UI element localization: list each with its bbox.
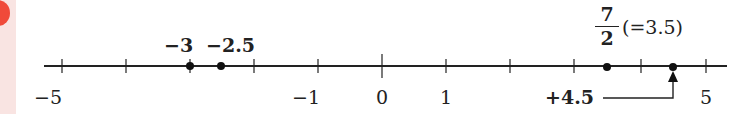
fraction-numerator: 7 [595, 5, 619, 27]
point-label-neg2-5: −2.5 [206, 36, 255, 55]
fraction-note: (=3.5) [622, 18, 683, 37]
arrow-annotation [603, 71, 678, 98]
point-4-5 [669, 63, 677, 71]
fraction-denominator: 2 [595, 27, 619, 48]
point-neg3 [186, 62, 194, 70]
point-label-neg3: −3 [164, 36, 193, 55]
tick-label-neg5: −5 [34, 88, 62, 107]
tick-label-5: 5 [700, 88, 712, 107]
fraction-7-over-2: 7 2 [595, 5, 619, 48]
tick-label-neg1: −1 [292, 88, 320, 107]
point-neg2-5 [217, 62, 225, 70]
annotation-plus-4-5: +4.5 [545, 88, 594, 107]
point-3-5 [603, 63, 611, 71]
tick-label-1: 1 [440, 88, 452, 107]
tick-label-0: 0 [376, 88, 388, 107]
